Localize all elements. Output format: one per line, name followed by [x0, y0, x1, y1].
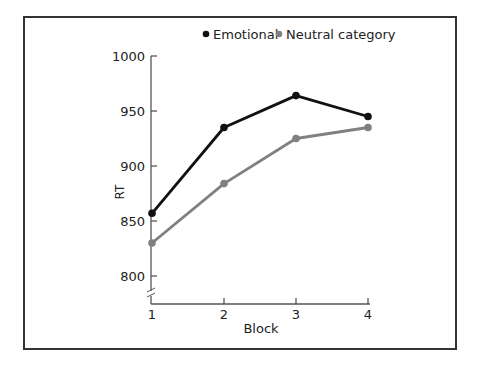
legend-marker-neutral — [276, 31, 283, 38]
legend: Emotional Neutral category — [203, 27, 396, 42]
y-tick-label: 800 — [120, 269, 145, 284]
data-point-neutral — [148, 239, 156, 247]
data-series — [148, 92, 372, 247]
legend-label-neutral: Neutral category — [286, 27, 396, 42]
y-tick-label: 950 — [120, 104, 145, 119]
x-tick-label: 3 — [292, 307, 300, 322]
x-tick-label: 1 — [148, 307, 156, 322]
x-axis: 1234 Block — [148, 298, 372, 336]
data-point-neutral — [220, 180, 228, 188]
data-point-emotional — [220, 124, 228, 132]
x-tick-label: 2 — [220, 307, 228, 322]
x-tick-label: 4 — [364, 307, 372, 322]
y-axis-label: RT — [113, 184, 127, 199]
series-line-emotional — [152, 96, 368, 214]
data-point-emotional — [364, 113, 372, 121]
y-tick-label: 850 — [120, 214, 145, 229]
data-point-neutral — [364, 124, 372, 132]
line-chart: Emotional Neutral category 8008509009501… — [0, 0, 477, 367]
y-tick-label: 900 — [120, 159, 145, 174]
data-point-emotional — [292, 92, 300, 100]
data-point-emotional — [148, 210, 156, 218]
x-axis-label: Block — [243, 321, 279, 336]
legend-label-emotional: Emotional — [213, 27, 278, 42]
legend-marker-emotional — [203, 31, 210, 38]
series-line-neutral — [152, 128, 368, 244]
data-point-neutral — [292, 135, 300, 143]
y-axis: 8008509009501000 RT — [112, 49, 157, 304]
y-tick-label: 1000 — [112, 49, 145, 64]
